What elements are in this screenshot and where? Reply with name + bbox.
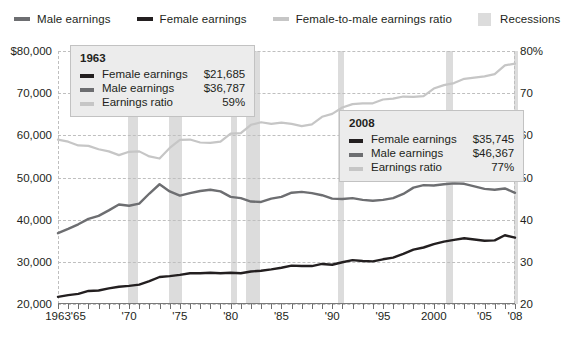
x-tick: [383, 304, 384, 309]
callout-row: Female earnings$35,745: [349, 132, 514, 146]
legend-label: Recessions: [500, 13, 560, 25]
callout-year: 1963: [80, 52, 245, 64]
legend-label: Female-to-male earnings ratio: [296, 13, 452, 25]
x-tick: [200, 304, 201, 309]
line-swatch-icon: [14, 17, 30, 21]
x-tick: [353, 304, 354, 309]
x-tick: [78, 304, 79, 309]
callout-label: Male earnings: [102, 81, 204, 95]
x-tick: [424, 304, 425, 309]
legend-label: Female earnings: [160, 13, 247, 25]
line-swatch-icon: [137, 17, 153, 21]
callout-2008: 2008Female earnings$35,745Male earnings$…: [339, 110, 524, 182]
line-swatch-icon: [349, 153, 363, 157]
y-axis-left-label: 40,000: [0, 214, 52, 226]
x-axis-label: 2000: [421, 310, 447, 322]
legend-item-1: Male earnings: [14, 13, 111, 25]
x-tick: [241, 304, 242, 309]
y-axis-left-label: 70,000: [0, 87, 52, 99]
callout-row: Male earnings$36,787: [80, 81, 245, 95]
y-axis-right-label: 70: [520, 87, 570, 99]
x-tick: [271, 304, 272, 309]
x-axis-label: '85: [274, 310, 289, 322]
x-tick: [393, 304, 394, 309]
callout-row: Earnings ratio77%: [349, 160, 514, 174]
line-swatch-icon: [80, 102, 94, 106]
series-line-female-earnings: [58, 235, 515, 297]
x-tick: [332, 304, 333, 309]
x-tick: [434, 304, 435, 309]
callout-swatch-cell: [80, 81, 102, 95]
x-tick: [474, 304, 475, 309]
y-axis-right-label: 60: [520, 129, 570, 141]
callout-value: $21,685: [204, 67, 246, 81]
box-swatch-icon: [478, 13, 491, 26]
x-tick: [68, 304, 69, 309]
callout-row: Earnings ratio59%: [80, 95, 245, 109]
series-line-male-earnings: [58, 183, 515, 233]
line-swatch-icon: [349, 139, 363, 143]
callout-value: 59%: [204, 95, 246, 109]
chart-legend: Male earningsFemale earningsFemale-to-ma…: [14, 10, 570, 28]
x-axis-label: '90: [325, 310, 340, 322]
callout-1963: 1963Female earnings$21,685Male earnings$…: [70, 45, 255, 117]
callout-value: 77%: [473, 160, 515, 174]
top-edge-artifact: [0, 0, 570, 7]
x-axis-label: '08: [508, 310, 523, 322]
callout-row: Female earnings$21,685: [80, 67, 245, 81]
x-axis-label: '95: [375, 310, 390, 322]
x-tick: [170, 304, 171, 309]
x-tick: [322, 304, 323, 309]
x-tick: [109, 304, 110, 309]
y-axis-left-label: 60,000: [0, 129, 52, 141]
x-tick: [363, 304, 364, 309]
y-axis-right-label: 30: [520, 256, 570, 268]
line-swatch-icon: [80, 88, 94, 92]
x-tick: [220, 304, 221, 309]
legend-item-2: Female earnings: [137, 13, 247, 25]
x-tick: [180, 304, 181, 309]
x-tick: [312, 304, 313, 309]
callout-value: $35,745: [473, 132, 515, 146]
x-tick: [444, 304, 445, 309]
x-axis-label: '65: [71, 310, 86, 322]
callout-label: Earnings ratio: [371, 160, 473, 174]
chart-container: Male earningsFemale earningsFemale-to-ma…: [0, 0, 570, 341]
y-axis-left-label: 20,000: [0, 298, 52, 310]
x-tick: [231, 304, 232, 309]
callout-swatch-cell: [80, 67, 102, 81]
x-tick: [88, 304, 89, 309]
x-axis-label: '80: [223, 310, 238, 322]
y-axis-right-label: 40: [520, 214, 570, 226]
x-tick: [119, 304, 120, 309]
y-axis-left-label: $80,000: [0, 45, 52, 57]
legend-item-3: Female-to-male earnings ratio: [273, 13, 452, 25]
line-swatch-icon: [273, 17, 289, 21]
x-axis-label: 1963: [45, 310, 71, 322]
callout-label: Female earnings: [102, 67, 204, 81]
y-axis-right-label: 50: [520, 172, 570, 184]
x-tick: [403, 304, 404, 309]
x-tick: [261, 304, 262, 309]
x-tick: [464, 304, 465, 309]
callout-label: Male earnings: [371, 146, 473, 160]
x-axis-label: '75: [172, 310, 187, 322]
x-tick: [210, 304, 211, 309]
callout-row: Male earnings$46,367: [349, 146, 514, 160]
callout-value: $46,367: [473, 146, 515, 160]
legend-item-4: Recessions: [478, 13, 560, 26]
callout-label: Female earnings: [371, 132, 473, 146]
x-tick: [99, 304, 100, 309]
line-swatch-icon: [349, 167, 363, 171]
y-axis-left-label: 30,000: [0, 256, 52, 268]
x-tick: [495, 304, 496, 309]
x-tick: [139, 304, 140, 309]
x-tick: [342, 304, 343, 309]
x-axis-label: '70: [122, 310, 137, 322]
x-tick: [251, 304, 252, 309]
callout-swatch-cell: [349, 160, 371, 174]
x-tick: [129, 304, 130, 309]
y-axis-right-label: 20: [520, 298, 570, 310]
x-tick: [149, 304, 150, 309]
line-swatch-icon: [80, 74, 94, 78]
